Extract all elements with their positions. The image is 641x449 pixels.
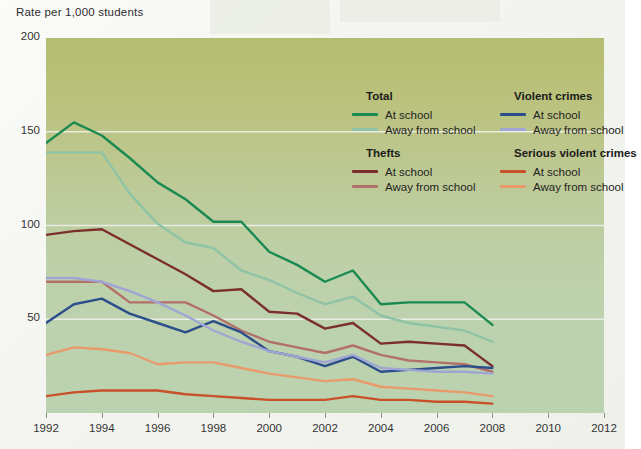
y-tick-label: 50 [27, 311, 40, 323]
legend-swatch-icon [500, 185, 526, 188]
x-axis-ticks: 1992199419961998200020022004200620082010… [0, 418, 625, 444]
y-tick-label: 150 [21, 124, 40, 136]
legend-item-label: Away from school [385, 180, 476, 195]
legend-item-label: Away from school [533, 123, 624, 138]
x-tick-mark [269, 413, 270, 418]
x-tick-mark [325, 413, 326, 418]
legend-item-label: Away from school [533, 180, 624, 195]
x-tick-mark [46, 413, 47, 418]
series-line [46, 282, 492, 372]
x-tick-label: 1996 [145, 422, 171, 434]
x-tick-mark [548, 413, 549, 418]
legend-swatch-icon [500, 170, 526, 173]
legend-group: TheftsAt schoolAway from school [352, 147, 500, 193]
legend-group-title: Total [366, 90, 500, 102]
legend-swatch-icon [352, 170, 378, 173]
legend-item[interactable]: Away from school [500, 178, 641, 193]
legend-swatch-icon [352, 128, 378, 131]
y-tick-label: 100 [21, 218, 40, 230]
legend-item[interactable]: At school [352, 163, 500, 178]
legend-item[interactable]: Away from school [352, 178, 500, 193]
legend-item-label: Away from school [385, 123, 476, 138]
x-tick-label: 1992 [33, 422, 59, 434]
x-tick-mark [158, 413, 159, 418]
series-line [46, 229, 492, 366]
x-tick-label: 1998 [201, 422, 227, 434]
x-tick-label: 2012 [591, 422, 617, 434]
legend-item[interactable]: Away from school [352, 121, 500, 136]
x-tick-label: 2006 [424, 422, 450, 434]
legend-item[interactable]: Away from school [500, 121, 641, 136]
legend-column-right: Violent crimesAt schoolAway from schoolS… [500, 90, 641, 204]
paper-texture [210, 0, 330, 34]
legend-item[interactable]: At school [500, 106, 641, 121]
legend-item[interactable]: At school [500, 163, 641, 178]
legend-swatch-icon [352, 185, 378, 188]
y-tick-label: 200 [21, 30, 40, 42]
x-tick-label: 2004 [368, 422, 394, 434]
legend-group-title: Serious violent crimes [514, 147, 641, 159]
x-tick-mark [437, 413, 438, 418]
x-tick-label: 2008 [480, 422, 506, 434]
x-tick-mark [604, 413, 605, 418]
x-tick-mark [381, 413, 382, 418]
chart-legend: TotalAt schoolAway from schoolTheftsAt s… [352, 90, 641, 198]
legend-column-left: TotalAt schoolAway from schoolTheftsAt s… [352, 90, 500, 204]
y-axis-ticks: 50100150200 [0, 0, 40, 449]
legend-swatch-icon [500, 128, 526, 131]
x-tick-mark [492, 413, 493, 418]
x-tick-label: 1994 [89, 422, 115, 434]
x-tick-label: 2002 [312, 422, 338, 434]
legend-group-title: Violent crimes [514, 90, 641, 102]
plot-area: TotalAt schoolAway from schoolTheftsAt s… [46, 38, 604, 413]
x-tick-mark [213, 413, 214, 418]
legend-group: Violent crimesAt schoolAway from school [500, 90, 641, 136]
x-tick-label: 2010 [535, 422, 561, 434]
legend-swatch-icon [352, 113, 378, 116]
legend-swatch-icon [500, 113, 526, 116]
x-tick-label: 2000 [256, 422, 282, 434]
paper-texture [340, 0, 500, 22]
series-line [46, 391, 492, 404]
legend-group: Serious violent crimesAt schoolAway from… [500, 147, 641, 193]
legend-item[interactable]: At school [352, 106, 500, 121]
legend-group-title: Thefts [366, 147, 500, 159]
legend-group: TotalAt schoolAway from school [352, 90, 500, 136]
x-tick-mark [102, 413, 103, 418]
